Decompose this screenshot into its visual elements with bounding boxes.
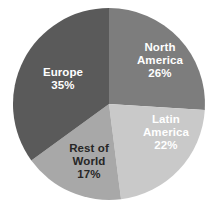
pie-chart: North America 26% Latin America 22% Euro… <box>0 0 219 208</box>
pie-slice-latin-america <box>109 104 205 199</box>
pie-slice-north-america <box>109 8 205 110</box>
pie-slice-group <box>13 8 205 200</box>
pie-chart-svg <box>0 0 219 208</box>
